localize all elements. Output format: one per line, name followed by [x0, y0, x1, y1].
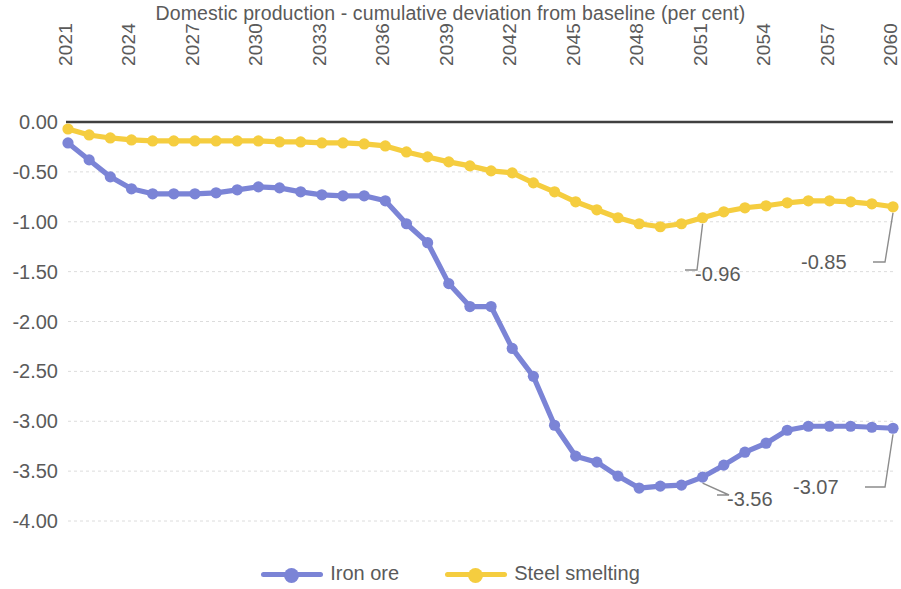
chart-plot-area: -0.96-0.85-3.56-3.07 — [0, 0, 901, 589]
chart-legend: Iron oreSteel smelting — [0, 562, 901, 585]
legend-marker-icon — [445, 566, 507, 582]
legend-label: Steel smelting — [514, 562, 640, 585]
legend-item-iron-ore[interactable]: Iron ore — [261, 562, 399, 585]
series-steel-smelting — [62, 123, 898, 232]
legend-item-steel-smelting[interactable]: Steel smelting — [445, 562, 640, 585]
gridlines — [68, 172, 893, 521]
callout-label: -0.85 — [801, 251, 847, 273]
callout-label: -3.07 — [793, 476, 839, 498]
series-iron-ore — [62, 137, 898, 493]
callout-label: -0.96 — [695, 263, 741, 285]
legend-marker-icon — [261, 566, 323, 582]
legend-label: Iron ore — [330, 562, 399, 585]
callout-label: -3.56 — [727, 488, 773, 510]
chart-container: Domestic production - cumulative deviati… — [0, 0, 901, 589]
data-callouts: -0.96-0.85-3.56-3.07 — [685, 213, 893, 510]
